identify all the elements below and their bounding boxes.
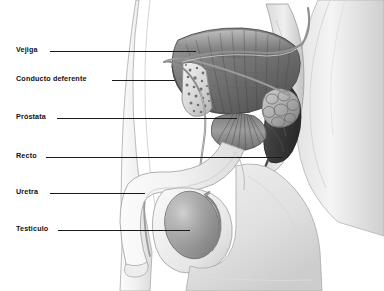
label-conducto-deferente: Conducto deferente (16, 75, 87, 82)
leader-line-conducto-deferente (112, 80, 175, 81)
label-recto: Recto (16, 152, 37, 159)
leader-line-uretra (50, 193, 145, 194)
label-testiculo: Testiculo (16, 225, 48, 232)
seminal-vesicle (262, 89, 300, 128)
anatomy-illustration (0, 0, 384, 291)
label-uretra: Uretra (16, 188, 38, 195)
label-prostata: Próstata (16, 113, 46, 120)
leader-line-prostata (57, 118, 237, 119)
leader-line-vejiga (50, 51, 196, 52)
leader-line-recto (46, 157, 283, 158)
label-vejiga: Vejiga (16, 46, 38, 53)
leader-line-testiculo (58, 230, 190, 231)
